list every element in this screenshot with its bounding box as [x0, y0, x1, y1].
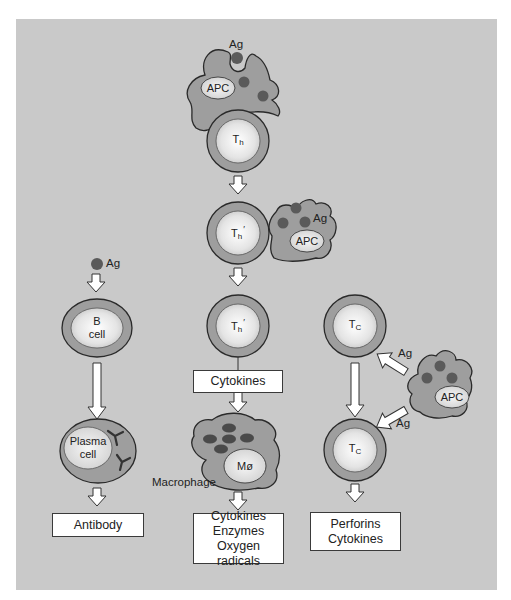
apc-label: APC	[207, 82, 230, 95]
output-line: Cytokines	[211, 509, 266, 524]
arrow-down	[87, 274, 105, 292]
output-line: Enzymes	[213, 524, 264, 539]
macrophage-caption: Macrophage	[152, 476, 216, 488]
antigen-label: Ag	[106, 257, 120, 269]
cytokines-box: Cytokines	[193, 370, 283, 393]
arrow-down	[229, 268, 247, 286]
antibody-box: Antibody	[52, 513, 144, 537]
plasma-cell-label: Plasma cell	[70, 435, 107, 461]
macrophage-label: Mø	[237, 460, 253, 473]
arrow-down	[229, 176, 247, 194]
arrow-down	[346, 363, 364, 417]
tc-cell-2-label: TC	[349, 442, 362, 458]
tc-cell-1-label: TC	[349, 318, 362, 334]
antigen-label: Ag	[229, 38, 243, 50]
th-cell-label: Th	[232, 133, 243, 149]
arrow-down	[88, 363, 106, 419]
th-prime-2-label: Th′	[231, 316, 245, 336]
apc-side	[269, 200, 336, 261]
th-prime-1-label: Th′	[231, 223, 245, 243]
antigen-dot	[91, 258, 103, 270]
output-line: Cytokines	[328, 532, 383, 547]
antigen-dot	[231, 52, 243, 64]
b-cell-label: B cell	[89, 315, 106, 341]
antigen-label-lower: Ag	[396, 417, 410, 429]
antigen-dot	[239, 77, 250, 88]
apc-label: APC	[296, 235, 319, 248]
antigen-label: Ag	[313, 212, 327, 224]
arrow-down	[229, 392, 247, 412]
apc-label: APC	[441, 391, 464, 404]
perforins-box: Perforins Cytokines	[310, 512, 401, 551]
antigen-dot	[258, 91, 269, 102]
output-line: Oxygen radicals	[194, 539, 283, 569]
center-output-box: Cytokines Enzymes Oxygen radicals	[193, 513, 284, 564]
apc-right	[408, 351, 472, 418]
arrow-down	[229, 492, 247, 510]
arrow-down	[346, 484, 364, 502]
arrow-down	[88, 488, 106, 506]
antigen-label-upper: Ag	[398, 347, 412, 359]
output-line: Perforins	[330, 517, 380, 532]
